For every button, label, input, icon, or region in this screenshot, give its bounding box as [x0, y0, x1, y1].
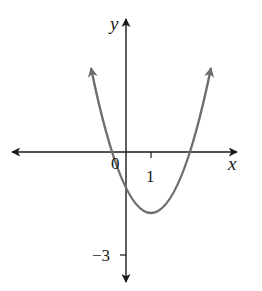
parabola-graph: y x 0 1 −3: [0, 0, 262, 291]
y-tick-neg3-label: −3: [92, 246, 110, 265]
y-axis-label: y: [108, 13, 119, 34]
origin-label: 0: [111, 154, 120, 173]
parabola-curve: [91, 68, 211, 213]
x-axis-label: x: [227, 153, 237, 174]
x-tick-1-label: 1: [146, 167, 155, 186]
